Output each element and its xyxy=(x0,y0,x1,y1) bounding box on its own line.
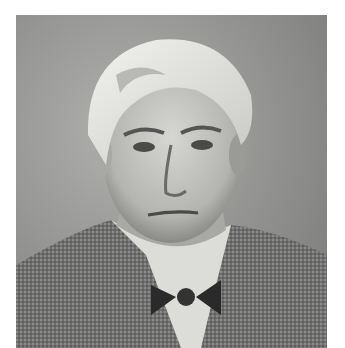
portrait-photo xyxy=(16,15,327,348)
portrait-illustration xyxy=(16,15,327,348)
bowtie-knot xyxy=(177,288,195,306)
